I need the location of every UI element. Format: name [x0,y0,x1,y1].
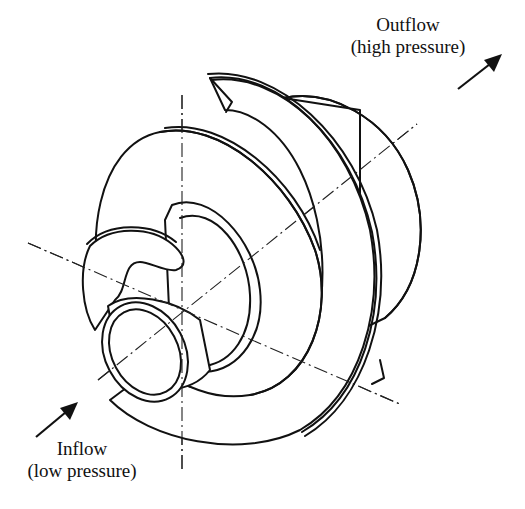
outflow-title: Outflow [328,14,488,36]
impeller-diagram: Outflow (high pressure) Inflow (low pres… [0,0,525,509]
outflow-label: Outflow (high pressure) [328,14,488,58]
outflow-subtitle: (high pressure) [328,36,488,58]
outflow-arrow-icon [458,54,502,89]
inflow-arrow-icon [36,402,78,437]
inflow-label: Inflow (low pressure) [2,438,162,482]
inflow-subtitle: (low pressure) [2,460,162,482]
impeller-drawing [0,0,525,509]
blade-trailing-tip [372,360,384,384]
inflow-title: Inflow [2,438,162,460]
